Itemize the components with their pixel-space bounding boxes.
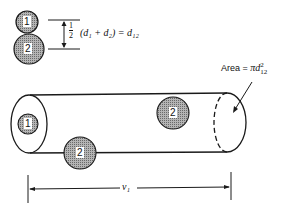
fraction-numerator: 1: [69, 21, 73, 30]
molecule-2-boundary-label: 2: [76, 147, 84, 158]
fraction-denominator: 2: [69, 30, 73, 40]
molecule-1-cylinder-label: 1: [24, 118, 32, 129]
area-expression: πd: [250, 62, 260, 73]
cylinder-back-end-solid: [227, 93, 246, 152]
area-pointer-arrow: [233, 82, 252, 113]
area-text: Area =: [221, 63, 248, 73]
collision-diagram: [0, 0, 289, 213]
half-fraction: 1 2: [69, 21, 73, 40]
area-label: Area = πd212: [221, 62, 267, 76]
collision-cylinder: [11, 93, 246, 153]
area-subscript: 12: [260, 69, 267, 76]
separation-expression: (d₁ + d₂) = d₁₂: [80, 27, 139, 38]
separation-bracket: [48, 20, 80, 49]
cylinder-back-end-dashed: [214, 93, 227, 152]
molecule-2-label: 2: [24, 43, 32, 54]
molecule-1-label: 1: [23, 16, 31, 27]
length-label: v₁: [122, 181, 130, 192]
molecule-2-inside-label: 2: [169, 107, 177, 118]
